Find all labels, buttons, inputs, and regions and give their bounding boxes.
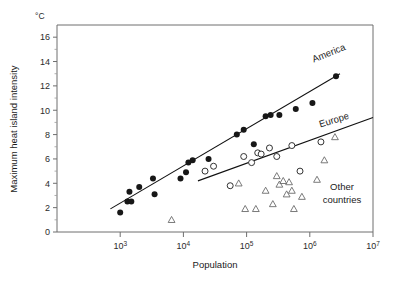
data-point-america — [268, 112, 274, 118]
y-tick-label: 0 — [45, 227, 50, 237]
x-tick-label: 107 — [366, 240, 380, 252]
y-tick-label: 2 — [45, 203, 50, 213]
series-points-america — [117, 73, 339, 215]
data-point-europe — [318, 139, 324, 145]
data-point-europe — [211, 163, 217, 169]
data-point-europe — [258, 151, 264, 157]
data-point-other-countries — [269, 201, 276, 207]
data-point-america — [206, 156, 212, 162]
data-point-other-countries — [314, 176, 321, 182]
heat-island-scatter-plot: °C Maximum heat island intensity Populat… — [0, 0, 393, 281]
y-axis-tick-labels: 0246810121416 — [40, 32, 50, 237]
x-tick-label: 103 — [113, 240, 127, 252]
data-point-europe — [297, 168, 303, 174]
x-axis-title: Population — [193, 259, 238, 270]
y-axis-title: Maximum heat island intensity — [8, 65, 19, 192]
y-tick-label: 12 — [40, 81, 50, 91]
data-point-america — [150, 175, 156, 181]
series-label-other-countries: Other countries — [323, 181, 362, 205]
series-label-other-countries-line2: countries — [323, 194, 362, 205]
data-point-america — [152, 191, 158, 197]
data-point-other-countries — [168, 216, 175, 222]
data-point-america — [234, 132, 240, 138]
data-point-europe — [202, 168, 208, 174]
y-tick-label: 6 — [45, 154, 50, 164]
data-point-europe — [274, 154, 280, 160]
data-point-other-countries — [299, 193, 306, 199]
data-point-europe — [227, 183, 233, 189]
data-point-america — [126, 189, 132, 195]
data-point-america — [276, 112, 282, 118]
data-point-america — [263, 113, 269, 119]
x-tick-label: 106 — [303, 240, 317, 252]
data-point-other-countries — [290, 205, 297, 211]
data-point-other-countries — [273, 173, 280, 179]
data-point-america — [136, 184, 142, 190]
y-axis-unit-label: °C — [35, 11, 45, 21]
series-label-europe: Europe — [318, 110, 351, 129]
data-point-other-countries — [276, 181, 283, 187]
y-tick-label: 8 — [45, 130, 50, 140]
data-point-other-countries — [235, 180, 242, 186]
series-label-other-countries-line1: Other — [330, 181, 354, 192]
data-point-america — [293, 106, 299, 112]
data-point-other-countries — [332, 134, 339, 140]
y-tick-label: 16 — [40, 32, 50, 42]
data-point-other-countries — [280, 177, 287, 183]
y-tick-label: 14 — [40, 57, 50, 67]
series-label-america: America — [310, 41, 347, 65]
y-tick-label: 4 — [45, 179, 50, 189]
x-axis-ticks — [120, 232, 373, 237]
series-points-europe — [202, 139, 324, 189]
x-axis-tick-labels: 103104105106107 — [113, 240, 380, 252]
data-point-america — [183, 169, 189, 175]
data-point-other-countries — [321, 157, 328, 163]
data-point-america — [309, 100, 315, 106]
data-point-europe — [241, 154, 247, 160]
data-point-other-countries — [288, 187, 295, 193]
data-point-america — [128, 199, 134, 205]
data-point-america — [117, 210, 123, 216]
data-point-other-countries — [262, 187, 269, 193]
data-point-other-countries — [242, 205, 249, 211]
trend-line-europe — [198, 118, 373, 181]
data-point-america — [241, 127, 247, 133]
data-point-america — [190, 157, 196, 163]
data-point-other-countries — [252, 205, 259, 211]
trend-line-america — [110, 74, 340, 209]
chart-figure: °C Maximum heat island intensity Populat… — [0, 0, 393, 281]
data-point-america — [251, 141, 257, 147]
y-tick-label: 10 — [40, 106, 50, 116]
y-axis-ticks — [53, 37, 57, 232]
data-point-other-countries — [286, 179, 293, 185]
x-tick-label: 105 — [240, 240, 254, 252]
x-tick-label: 104 — [177, 240, 191, 252]
data-point-europe — [249, 160, 255, 166]
data-point-america — [178, 175, 184, 181]
data-point-america — [333, 73, 339, 79]
data-point-europe — [289, 143, 295, 149]
data-point-europe — [266, 145, 272, 151]
